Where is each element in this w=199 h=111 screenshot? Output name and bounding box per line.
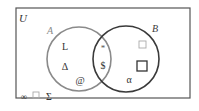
set-b-label: B xyxy=(152,23,158,34)
universe-label: U xyxy=(19,12,28,24)
element-a-at: @ xyxy=(75,75,84,86)
element-u-infinity: ∞ xyxy=(21,92,27,102)
element-u-sigma: Σ xyxy=(46,91,52,102)
element-b-alpha: α xyxy=(126,74,132,85)
venn-diagram: U A B L Δ @ * $ α ∞ Σ xyxy=(0,0,199,111)
element-a-l: L xyxy=(62,41,68,52)
element-ab-asterisk: * xyxy=(101,43,106,53)
element-a-delta: Δ xyxy=(62,61,69,72)
universe-rectangle xyxy=(16,8,190,98)
set-a-label: A xyxy=(46,25,54,36)
element-ab-dollar: $ xyxy=(101,60,106,71)
